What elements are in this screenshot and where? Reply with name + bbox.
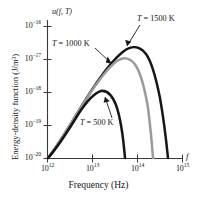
series-label-1000k-value: = 1000 K xyxy=(57,39,90,48)
axis-top-label-text: u(f, T) xyxy=(52,7,72,16)
x-tick-exponent-0: 12 xyxy=(49,162,54,168)
leader-1000k xyxy=(95,48,112,64)
series-label-500k: T = 500 K xyxy=(80,119,114,127)
series-label-500k-value: = 500 K xyxy=(85,118,114,127)
x-tick-mantissa-1: 10 xyxy=(86,164,94,173)
x-axis-title-text: Frequency (Hz) xyxy=(69,180,129,190)
x-axis-variable-text: f xyxy=(186,151,189,161)
y-tick-label-0: 10−16 xyxy=(13,22,41,30)
y-tick-exponent-4: −20 xyxy=(33,151,41,157)
y-tick-mantissa-3: 10 xyxy=(25,120,33,129)
leader-1500k xyxy=(125,25,140,46)
y-tick-exponent-1: −17 xyxy=(33,52,41,58)
curve-1000k xyxy=(48,58,153,158)
x-tick-mantissa-2: 10 xyxy=(131,164,139,173)
y-tick-exponent-2: −18 xyxy=(33,85,41,91)
x-tick-mantissa-3: 10 xyxy=(176,164,184,173)
leader-500k xyxy=(104,97,112,118)
y-tick-mantissa-1: 10 xyxy=(25,54,33,63)
energy-density-chart: u(f, T) 10−16 10−17 10−18 10−19 10−20 10… xyxy=(0,0,197,198)
x-tick-label-3: 1015 xyxy=(168,165,198,173)
x-tick-mantissa-0: 10 xyxy=(41,164,49,173)
series-label-1500k-value: = 1500 K xyxy=(142,14,175,23)
y-tick-mantissa-4: 10 xyxy=(25,153,33,162)
y-tick-exponent-3: −19 xyxy=(33,118,41,124)
axis-top-label: u(f, T) xyxy=(52,8,72,16)
x-tick-exponent-1: 13 xyxy=(94,162,99,168)
x-tick-exponent-2: 14 xyxy=(139,162,144,168)
curve-1500k xyxy=(48,47,168,158)
y-axis-title-text: Energy-density function (J/m³) xyxy=(10,54,20,160)
y-tick-mantissa-2: 10 xyxy=(25,87,33,96)
y-axis-title: Energy-density function (J/m³) xyxy=(11,54,20,160)
y-tick-exponent-0: −16 xyxy=(33,19,41,25)
x-tick-exponent-3: 15 xyxy=(184,162,189,168)
x-tick-label-0: 1012 xyxy=(33,165,63,173)
x-tick-label-1: 1013 xyxy=(78,165,108,173)
series-label-1500k: T = 1500 K xyxy=(137,15,175,23)
series-label-1000k: T = 1000 K xyxy=(52,40,90,48)
x-axis-title: Frequency (Hz) xyxy=(0,181,197,191)
x-axis-variable-label: f xyxy=(186,152,189,161)
x-tick-label-2: 1014 xyxy=(123,165,153,173)
y-tick-mantissa-0: 10 xyxy=(25,21,33,30)
